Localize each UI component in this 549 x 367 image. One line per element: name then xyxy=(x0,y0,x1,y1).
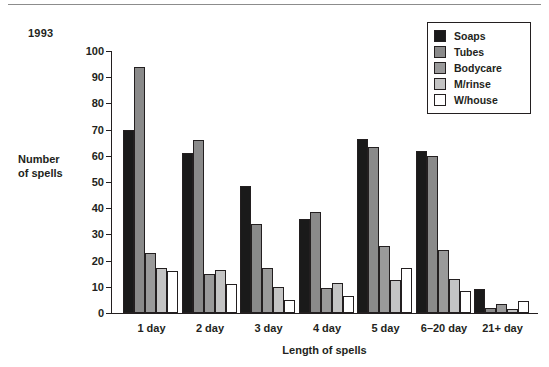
y-tick-label: 20 xyxy=(92,255,104,267)
legend-swatch-mrinse xyxy=(434,78,446,90)
legend-item-label: W/house xyxy=(454,94,498,106)
bar[interactable] xyxy=(215,270,226,313)
legend-item[interactable]: Bodycare xyxy=(434,60,524,76)
bar-group xyxy=(357,51,414,313)
y-tick-mark xyxy=(106,313,111,314)
x-axis-title: Length of spells xyxy=(111,344,538,356)
x-tick-label: 5 day xyxy=(371,322,399,334)
bar-group xyxy=(182,51,239,313)
bar[interactable] xyxy=(182,153,193,313)
bar[interactable] xyxy=(343,296,354,313)
legend-item-label: Soaps xyxy=(454,30,486,42)
legend-item[interactable]: Tubes xyxy=(434,44,524,60)
y-axis-title-line-1: Number xyxy=(18,152,88,166)
bar[interactable] xyxy=(204,274,215,313)
bar[interactable] xyxy=(251,224,262,313)
y-tick-label: 60 xyxy=(92,150,104,162)
legend-item-label: M/rinse xyxy=(454,78,491,90)
legend-item-label: Tubes xyxy=(454,46,484,58)
top-divider-rule xyxy=(8,4,541,5)
bar[interactable] xyxy=(474,289,485,313)
bar[interactable] xyxy=(134,67,145,313)
y-axis-title: Number of spells xyxy=(18,152,88,180)
legend-item-label: Bodycare xyxy=(454,62,502,74)
bar[interactable] xyxy=(145,253,156,313)
y-tick-label: 30 xyxy=(92,228,104,240)
legend-item[interactable]: M/rinse xyxy=(434,76,524,92)
legend-swatch-soaps xyxy=(434,30,446,42)
legend-swatch-tubes xyxy=(434,46,446,58)
y-tick-label: 70 xyxy=(92,124,104,136)
bar[interactable] xyxy=(310,212,321,313)
bar-group xyxy=(123,51,180,313)
x-tick-label: 6–20 day xyxy=(421,322,467,334)
x-tick-label: 21+ day xyxy=(482,322,523,334)
legend-swatch-bodycare xyxy=(434,62,446,74)
bar[interactable] xyxy=(332,283,343,313)
y-tick-label: 80 xyxy=(92,97,104,109)
y-tick-label: 100 xyxy=(86,45,104,57)
bar[interactable] xyxy=(449,279,460,313)
y-tick-label: 40 xyxy=(92,202,104,214)
bar[interactable] xyxy=(240,186,251,313)
legend-box: SoapsTubesBodycareM/rinseW/house xyxy=(427,22,531,114)
y-tick-label: 90 xyxy=(92,71,104,83)
y-axis-title-line-2: of spells xyxy=(18,166,88,180)
bar[interactable] xyxy=(401,268,412,313)
bar[interactable] xyxy=(368,147,379,313)
bar[interactable] xyxy=(507,309,518,313)
bar[interactable] xyxy=(284,300,295,313)
bar[interactable] xyxy=(438,250,449,313)
bar[interactable] xyxy=(390,280,401,313)
bar[interactable] xyxy=(496,304,507,313)
bar[interactable] xyxy=(357,139,368,313)
x-tick-label: 1 day xyxy=(137,322,165,334)
bar-group xyxy=(299,51,356,313)
y-tick-label: 50 xyxy=(92,176,104,188)
legend-item[interactable]: Soaps xyxy=(434,28,524,44)
x-tick-label: 2 day xyxy=(196,322,224,334)
bar[interactable] xyxy=(379,246,390,313)
bar[interactable] xyxy=(193,140,204,313)
bar-group xyxy=(240,51,297,313)
bar[interactable] xyxy=(427,156,438,313)
x-tick-label: 3 day xyxy=(254,322,282,334)
bar[interactable] xyxy=(416,151,427,313)
bar[interactable] xyxy=(167,271,178,313)
bar[interactable] xyxy=(299,219,310,313)
x-tick-label: 4 day xyxy=(313,322,341,334)
y-tick-label: 0 xyxy=(98,307,104,319)
bar[interactable] xyxy=(518,301,529,313)
bar[interactable] xyxy=(460,291,471,313)
legend-swatch-whouse xyxy=(434,94,446,106)
y-tick-label: 10 xyxy=(92,281,104,293)
bar[interactable] xyxy=(262,268,273,313)
bar[interactable] xyxy=(273,287,284,313)
legend-item[interactable]: W/house xyxy=(434,92,524,108)
x-axis-line xyxy=(111,313,538,314)
bar[interactable] xyxy=(156,268,167,313)
bar[interactable] xyxy=(485,308,496,313)
bar[interactable] xyxy=(226,284,237,313)
bar[interactable] xyxy=(123,130,134,313)
year-caption: 1993 xyxy=(28,27,53,39)
bar[interactable] xyxy=(321,288,332,313)
